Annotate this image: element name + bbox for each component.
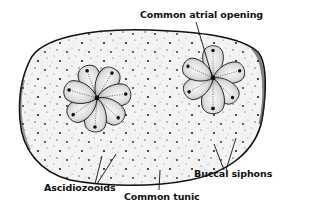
label-common-atrial-opening: Common atrial opening xyxy=(140,9,263,20)
label-common-tunic: Common tunic xyxy=(124,191,200,202)
label-buccal-siphons: Buccal siphons xyxy=(194,168,272,179)
common-atrial-opening-left xyxy=(95,96,100,101)
label-ascidiozooids: Ascidiozooids xyxy=(44,182,115,193)
common-atrial-opening-right xyxy=(211,76,216,81)
